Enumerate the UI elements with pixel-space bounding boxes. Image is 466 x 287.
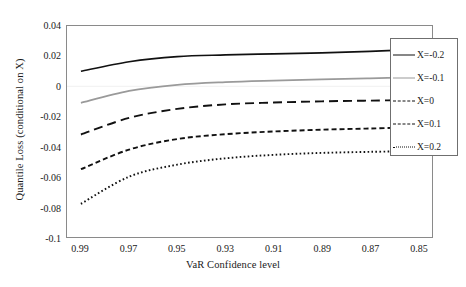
legend-line-solid-gray-icon — [393, 73, 415, 83]
legend-item-label: X=-0.1 — [415, 73, 444, 83]
legend-line-dotted-icon — [393, 142, 415, 152]
x-tick-label: 0.93 — [202, 243, 248, 254]
series-line-x-0-1 — [81, 127, 418, 169]
x-tick-label: 0.91 — [251, 243, 297, 254]
x-tick-label: 0.97 — [105, 243, 151, 254]
series-line-x-0-2 — [81, 151, 418, 204]
chart-figure: Quantile Loss (conditional on X) 0.040.0… — [0, 0, 466, 287]
legend-item-label: X=-0.2 — [415, 50, 444, 60]
plot-canvas — [67, 26, 432, 237]
legend-line-dashed-short-icon — [393, 119, 415, 129]
y-tick-label: 0 — [17, 80, 61, 91]
y-tick-label: -0.02 — [17, 111, 61, 122]
x-tick-label: 0.87 — [348, 243, 394, 254]
legend-line-solid-black-icon — [393, 50, 415, 60]
legend: X=-0.2 X=-0.1 X=0 X=0.1 X=0.2 — [390, 38, 458, 156]
legend-item-x-minus-0-1[interactable]: X=-0.1 — [391, 66, 457, 89]
legend-item-label: X=0 — [415, 96, 434, 106]
legend-line-dashed-icon — [393, 96, 415, 106]
legend-item-label: X=0.2 — [415, 142, 441, 152]
x-tick-label: 0.89 — [299, 243, 345, 254]
legend-item-x-minus-0-2[interactable]: X=-0.2 — [391, 43, 457, 66]
series-line-x-0-1 — [81, 77, 418, 103]
y-tick-label: -0.04 — [17, 141, 61, 152]
y-tick-label: -0.06 — [17, 172, 61, 183]
legend-item-x-0-2[interactable]: X=0.2 — [391, 135, 457, 158]
x-tick-label: 0.99 — [57, 243, 103, 254]
y-tick-label: -0.1 — [17, 233, 61, 244]
y-tick-label: -0.08 — [17, 202, 61, 213]
legend-item-label: X=0.1 — [415, 119, 441, 129]
legend-item-x-0[interactable]: X=0 — [391, 89, 457, 112]
y-tick-label: 0.04 — [17, 20, 61, 31]
series-line-x-0-2 — [81, 50, 418, 72]
x-tick-label: 0.85 — [396, 243, 442, 254]
legend-item-x-0-1[interactable]: X=0.1 — [391, 112, 457, 135]
plot-area — [66, 25, 433, 238]
x-tick-label: 0.95 — [154, 243, 200, 254]
x-axis-title: VaR Confidence level — [0, 259, 466, 270]
y-tick-label: 0.02 — [17, 50, 61, 61]
